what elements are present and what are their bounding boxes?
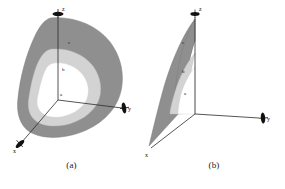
panel-b-graphic: z y x c b a [143, 0, 285, 160]
caption-panel-b: (b) [143, 160, 285, 170]
panel-a-graphic: z y x c b a [0, 0, 143, 160]
y-axis-line [195, 114, 259, 118]
axis-label-y: y [267, 116, 270, 122]
figure-container: z y x c b a [0, 0, 285, 189]
caption-panel-a: (a) [0, 160, 143, 170]
axis-label-z: z [62, 6, 65, 12]
axis-label-z: z [199, 6, 202, 12]
axis-label-y: y [128, 106, 131, 112]
axis-label-x: x [145, 152, 148, 158]
axis-label-x: x [13, 148, 16, 154]
